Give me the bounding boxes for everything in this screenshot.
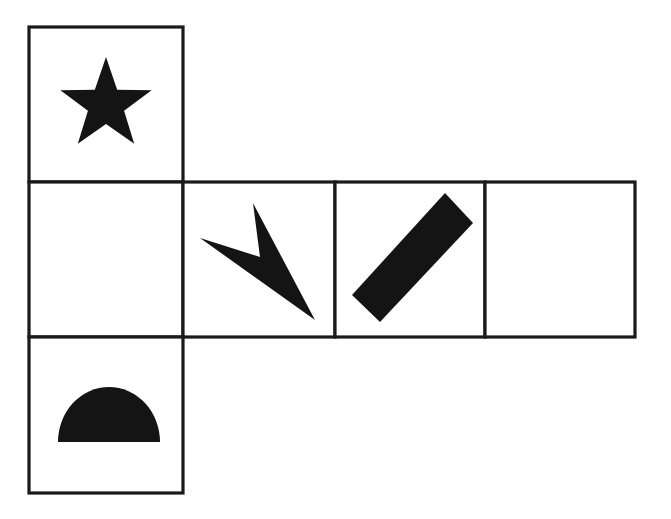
cell-middle-face-1 [29,182,183,337]
figure-canvas [0,0,671,519]
cube-net-diagram [0,0,671,519]
cell-middle-face-4 [485,182,635,337]
